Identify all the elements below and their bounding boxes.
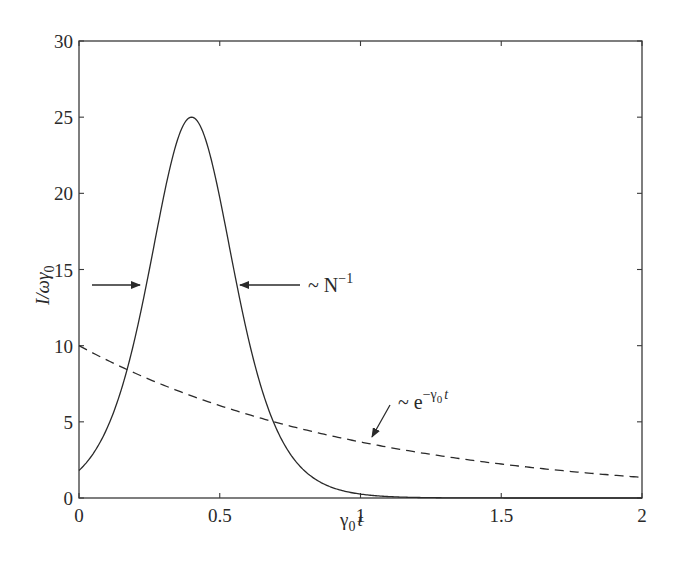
exp-annotation: ~ e−γ0t bbox=[372, 387, 449, 437]
y-tick-label: 5 bbox=[64, 412, 74, 433]
pulse-curve bbox=[79, 117, 642, 498]
x-tick-label: 0 bbox=[74, 505, 84, 526]
y-axis-label: I/ωγ0 bbox=[32, 265, 57, 306]
y-tick-label: 10 bbox=[54, 336, 73, 357]
x-tick-label: 1.5 bbox=[489, 505, 513, 526]
chart-figure: 00.511.52051015202530 ~ N−1 ~ e−γ0t γ0t … bbox=[0, 0, 679, 580]
x-axis-label: γ0t bbox=[339, 509, 363, 534]
exponential-decay-curve bbox=[79, 346, 642, 478]
x-tick-label: 0.5 bbox=[208, 505, 232, 526]
series-layer bbox=[79, 117, 642, 498]
width-annotation-label: ~ N−1 bbox=[308, 271, 353, 296]
y-tick-label: 25 bbox=[54, 107, 73, 128]
y-tick-label: 0 bbox=[64, 488, 74, 509]
x-tick-label: 2 bbox=[637, 505, 647, 526]
y-tick-label: 30 bbox=[54, 31, 73, 52]
y-tick-label: 20 bbox=[54, 183, 73, 204]
plot-frame bbox=[79, 41, 642, 498]
axis-ticks bbox=[79, 41, 642, 498]
exp-annotation-arrow bbox=[372, 405, 390, 437]
width-annotation: ~ N−1 bbox=[92, 271, 353, 296]
exp-annotation-label: ~ e−γ0t bbox=[398, 387, 449, 413]
